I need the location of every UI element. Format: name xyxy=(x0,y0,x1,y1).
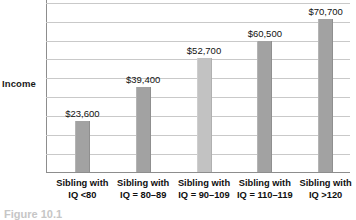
figure-caption: Figure 10.1 xyxy=(4,208,62,220)
bar[interactable] xyxy=(75,121,90,172)
category-label: Sibling withIQ >120 xyxy=(290,178,356,201)
bar[interactable] xyxy=(136,87,151,172)
bar[interactable] xyxy=(318,19,333,172)
figure-bar-chart: Income $23,600$39,400$52,700$60,500$70,7… xyxy=(0,0,356,220)
category-labels: Sibling withIQ <80Sibling withIQ = 80–89… xyxy=(46,178,350,206)
bar-value-label: $23,600 xyxy=(46,108,118,119)
bar-value-label: $60,500 xyxy=(229,28,301,39)
bar-value-label: $70,700 xyxy=(290,6,356,17)
bar-value-label: $39,400 xyxy=(107,74,179,85)
bar-value-label: $52,700 xyxy=(168,45,240,56)
bar[interactable] xyxy=(197,58,212,172)
y-axis-label: Income xyxy=(2,78,44,89)
bars-layer: $23,600$39,400$52,700$60,500$70,700 xyxy=(46,0,350,173)
bar[interactable] xyxy=(257,41,272,172)
